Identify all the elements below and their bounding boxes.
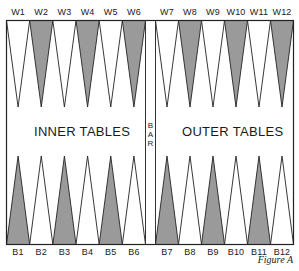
point-w2 [30,21,53,108]
bar-label: B A R [145,121,156,148]
bar-letter: B [145,121,156,130]
point-b3 [53,156,76,245]
point-w6 [122,21,145,108]
point-label-w1: W1 [7,7,30,17]
point-b1 [7,156,30,245]
point-b7 [156,156,179,245]
point-label-w8: W8 [179,7,202,17]
point-label-b4: B4 [76,247,99,257]
point-label-b9: B9 [202,247,225,257]
point-b8 [179,156,202,245]
point-label-b1: B1 [7,247,30,257]
point-w8 [179,21,202,108]
point-label-w5: W5 [99,7,122,17]
top-points [7,21,294,108]
point-label-w4: W4 [76,7,99,17]
point-label-w7: W7 [156,7,179,17]
point-w10 [225,21,248,108]
point-w7 [156,21,179,108]
point-label-w9: W9 [202,7,225,17]
outer-tables-title: OUTER TABLES [182,124,283,139]
inner-tables-title: INNER TABLES [34,124,130,139]
point-label-b3: B3 [53,247,76,257]
point-b2 [30,156,53,245]
point-label-b8: B8 [179,247,202,257]
point-label-w2: W2 [30,7,53,17]
point-label-b2: B2 [30,247,53,257]
figure-caption: Figure A [258,254,293,265]
point-b10 [225,156,248,245]
point-b4 [76,156,99,245]
bottom-points [7,156,294,245]
bar-letter: R [145,139,156,148]
point-w5 [99,21,122,108]
point-b9 [202,156,225,245]
point-label-b10: B10 [225,247,248,257]
point-b5 [99,156,122,245]
point-label-w3: W3 [53,7,76,17]
point-label-w11: W11 [248,7,271,17]
point-b6 [122,156,145,245]
point-w9 [202,21,225,108]
point-label-b7: B7 [156,247,179,257]
point-b11 [248,156,271,245]
point-label-w10: W10 [225,7,248,17]
point-label-w6: W6 [122,7,145,17]
point-w4 [76,21,99,108]
point-w1 [7,21,30,108]
point-w3 [53,21,76,108]
point-b12 [271,156,294,245]
point-w12 [271,21,294,108]
point-w11 [248,21,271,108]
bar-letter: A [145,130,156,139]
point-label-b6: B6 [122,247,145,257]
point-label-b5: B5 [99,247,122,257]
point-label-w12: W12 [271,7,294,17]
